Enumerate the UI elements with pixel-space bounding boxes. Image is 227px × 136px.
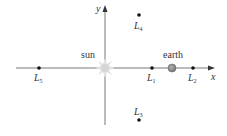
x-axis	[16, 66, 215, 71]
earth-icon	[168, 64, 176, 72]
lagrange-diagram: x y sun earth L1 L2 L3 L4 L5	[0, 0, 227, 136]
l4-point	[137, 13, 141, 17]
l1-label: L1	[146, 72, 156, 84]
l1-point	[150, 66, 154, 70]
l5-label: L5	[33, 72, 43, 84]
sun-label: sun	[81, 49, 95, 60]
l2-point	[191, 66, 195, 70]
l2-label: L2	[187, 72, 197, 84]
l3-label: L3	[133, 106, 143, 118]
l4-label: L4	[133, 20, 143, 32]
y-axis-label: y	[95, 3, 101, 14]
l5-point	[37, 66, 41, 70]
x-axis-label: x	[210, 71, 216, 82]
l3-point	[137, 118, 141, 122]
sun-icon	[95, 58, 115, 78]
earth-label: earth	[163, 49, 183, 60]
